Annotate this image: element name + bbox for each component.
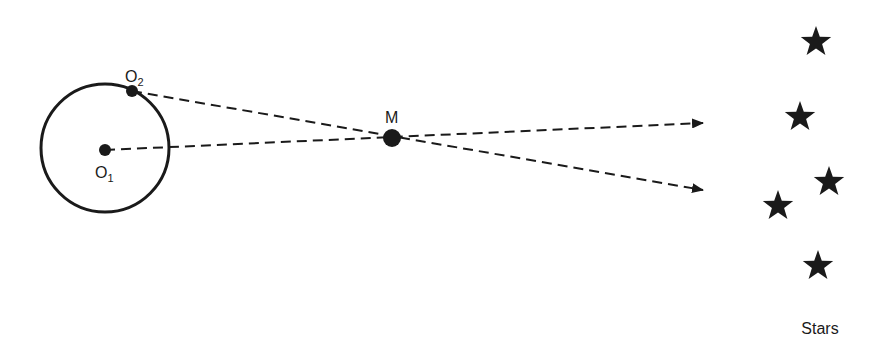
label-o1: O1 (95, 164, 114, 184)
parallax-diagram: O2 O1 M Stars (0, 0, 888, 359)
star-icon (801, 26, 831, 55)
sight-line-o1 (105, 123, 703, 150)
stars-label: Stars (801, 320, 838, 337)
sight-line-o2 (132, 91, 703, 190)
point-o1 (99, 144, 111, 156)
star-icon (785, 101, 815, 130)
star-icon (763, 190, 793, 219)
label-m: M (385, 109, 398, 126)
point-m (383, 129, 401, 147)
label-o2: O2 (125, 68, 144, 88)
point-o2 (126, 85, 138, 97)
star-group (763, 26, 844, 279)
star-icon (814, 166, 844, 195)
star-icon (803, 250, 833, 279)
